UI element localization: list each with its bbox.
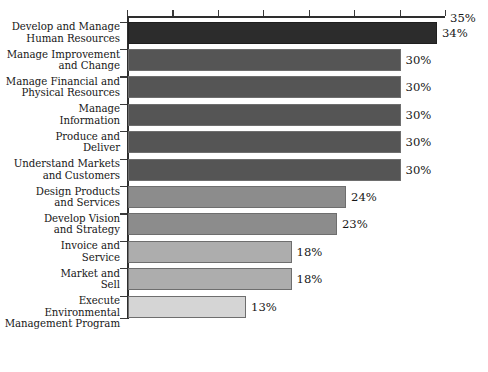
bar	[128, 22, 437, 44]
category-label-line: Physical Resources	[0, 87, 120, 98]
category-label-line: and Customers	[0, 170, 120, 181]
category-label-line: Understand Markets	[0, 158, 120, 169]
bar	[128, 241, 292, 263]
y-axis-tick	[120, 76, 127, 77]
bar-value-label: 30%	[406, 164, 432, 176]
x-axis-tick	[172, 10, 173, 16]
category-label-line: Execute Environmental	[0, 295, 120, 318]
bar-value-label: 30%	[406, 109, 432, 121]
bar-value-label: 13%	[251, 301, 277, 313]
category-label: Invoice andService	[0, 240, 120, 263]
category-label-line: Information	[0, 115, 120, 126]
bar	[128, 159, 401, 181]
bar-value-label: 24%	[351, 191, 377, 203]
category-label: ManageInformation	[0, 103, 120, 126]
bar	[128, 104, 401, 126]
y-axis-tick	[120, 241, 127, 242]
category-label-line: Manage Financial and	[0, 76, 120, 87]
x-axis-tick	[354, 10, 355, 16]
horizontal-bar-chart: Develop and ManageHuman ResourcesManage …	[0, 0, 488, 372]
category-label-line: Deliver	[0, 142, 120, 153]
category-label: Produce andDeliver	[0, 131, 120, 154]
category-label-line: Human Resources	[0, 33, 120, 44]
category-label-line: Market and	[0, 268, 120, 279]
category-label-line: Manage	[0, 103, 120, 114]
category-label: Manage Financial andPhysical Resources	[0, 76, 120, 99]
bar	[128, 296, 246, 318]
bar-value-label: 34%	[442, 27, 468, 39]
category-label-line: Invoice and	[0, 240, 120, 251]
y-axis-tick	[120, 268, 127, 269]
category-label: Understand Marketsand Customers	[0, 158, 120, 181]
bar	[128, 213, 337, 235]
category-label: Develop and ManageHuman Resources	[0, 21, 120, 44]
category-label: Execute EnvironmentalManagement Program	[0, 295, 120, 329]
bar-value-label: 30%	[406, 54, 432, 66]
y-axis-tick	[120, 49, 127, 50]
x-axis-tick	[309, 10, 310, 16]
category-label: Manage Improvementand Change	[0, 49, 120, 72]
category-label-line: and Services	[0, 197, 120, 208]
x-axis-tick	[263, 10, 264, 16]
y-axis-tick	[120, 296, 127, 297]
category-label-line: Design Products	[0, 186, 120, 197]
plot-area	[127, 16, 445, 352]
axis-max-label: 35%	[450, 11, 476, 25]
category-label: Market andSell	[0, 268, 120, 291]
y-axis-tick	[120, 318, 127, 319]
category-label-line: Sell	[0, 279, 120, 290]
x-axis-tick	[127, 10, 128, 16]
bar	[128, 268, 292, 290]
y-axis-tick	[120, 159, 127, 160]
category-label-line: Develop Vision	[0, 213, 120, 224]
bar-value-label: 30%	[406, 81, 432, 93]
category-label-line: Management Program	[0, 318, 120, 329]
category-label-line: Produce and	[0, 131, 120, 142]
category-label-line: and Strategy	[0, 224, 120, 235]
y-axis-tick	[120, 131, 127, 132]
y-axis-tick	[120, 186, 127, 187]
category-label-line: Manage Improvement	[0, 49, 120, 60]
category-label: Design Productsand Services	[0, 186, 120, 209]
category-label-line: Service	[0, 252, 120, 263]
x-axis-tick	[445, 10, 446, 16]
bar-value-label: 30%	[406, 136, 432, 148]
bar-value-label: 18%	[297, 246, 323, 258]
y-axis-tick	[120, 22, 127, 23]
category-label-line: and Change	[0, 60, 120, 71]
bar	[128, 186, 346, 208]
bar-value-label: 18%	[297, 273, 323, 285]
x-axis-tick	[218, 10, 219, 16]
x-axis-tick	[400, 10, 401, 16]
top-axis-line	[127, 16, 445, 18]
category-label-line: Develop and Manage	[0, 21, 120, 32]
bar-value-label: 23%	[342, 218, 368, 230]
category-label: Develop Visionand Strategy	[0, 213, 120, 236]
bar	[128, 131, 401, 153]
y-axis-tick	[120, 104, 127, 105]
bar	[128, 49, 401, 71]
y-axis-tick	[120, 213, 127, 214]
bar	[128, 76, 401, 98]
